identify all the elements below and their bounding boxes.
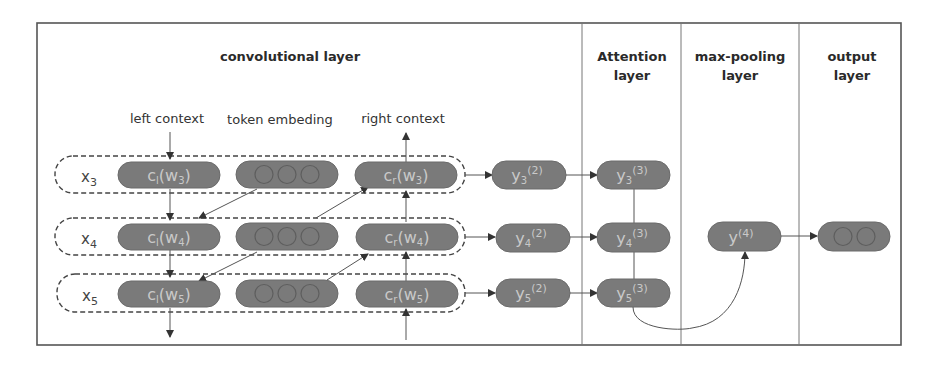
- arrow-emb5-cr4: [327, 254, 368, 280]
- arrow-emb4-cr3: [316, 187, 368, 218]
- header-output-line1: output: [827, 49, 876, 64]
- header-maxpool-line2: layer: [722, 68, 759, 83]
- output-node: [818, 222, 890, 251]
- word-x4: x4: [81, 230, 97, 251]
- label-token-embedding: token embeding: [227, 112, 333, 127]
- header-maxpool-line1: max-pooling: [695, 49, 786, 64]
- arrow-emb4-cl5: [199, 252, 257, 281]
- svg-text:cl(w5): cl(w5): [147, 285, 191, 305]
- header-attention-line1: Attention: [597, 49, 666, 64]
- header-output-line2: layer: [834, 68, 871, 83]
- label-right-context: right context: [361, 111, 445, 126]
- svg-text:cl(w3): cl(w3): [147, 166, 191, 186]
- word-x3: x3: [81, 168, 97, 189]
- svg-text:cr(w4): cr(w4): [385, 228, 430, 248]
- row-x3: x3 cl(w3) cr(w3): [81, 161, 457, 189]
- row-x5: x5 cl(w5) cr(w5): [82, 280, 458, 308]
- label-left-context: left context: [130, 111, 204, 126]
- rcnn-diagram: convolutional layer Attention layer max-…: [0, 0, 938, 369]
- header-convolutional-layer: convolutional layer: [220, 49, 361, 64]
- svg-text:cl(w4): cl(w4): [147, 228, 191, 248]
- svg-text:cr(w3): cr(w3): [384, 166, 429, 186]
- word-x5: x5: [82, 287, 98, 308]
- svg-text:cr(w5): cr(w5): [385, 285, 430, 305]
- header-attention-line2: layer: [614, 68, 651, 83]
- row-x4: x4 cl(w4) cr(w4): [81, 223, 458, 251]
